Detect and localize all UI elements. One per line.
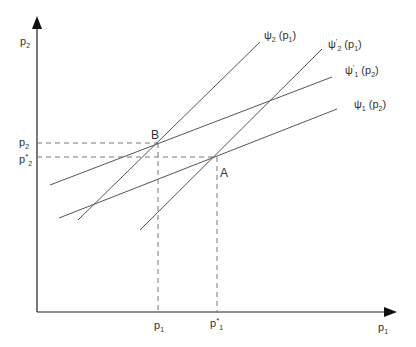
curve-psi2-prime [140,49,322,230]
curve-psi1 [59,109,337,218]
x-axis-label: p1 [378,322,388,335]
point-b-label: B [151,129,159,141]
label-psi1-prime: ψ'1 (p2) [345,64,379,78]
curve-psi1-prime [50,77,332,185]
diagram-canvas [0,0,416,347]
x-axis-arrow-icon [384,307,397,317]
y-axis-label: p2 [20,36,30,49]
tick-x-p1-star: p*1 [210,317,223,331]
y-axis-arrow-icon [32,16,42,29]
label-psi2-prime: ψ'2 (p1) [328,38,362,52]
tick-y-p2-star: p*2 [19,153,32,167]
point-a-label: A [220,167,228,179]
tick-x-p1: p1 [154,320,164,333]
label-psi1: ψ1 (p2) [354,99,386,112]
tick-y-p2: p2 [19,137,29,150]
label-psi2: ψ2 (p1) [264,30,296,43]
curve-psi2 [78,42,260,220]
